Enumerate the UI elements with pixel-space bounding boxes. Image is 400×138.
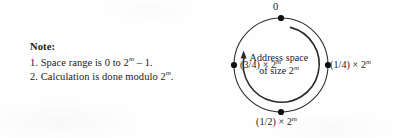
ring-label-quarter: (1/4) × 2m	[330, 58, 371, 70]
center-caption-line-2: of size 2m	[233, 64, 325, 78]
ring-label-half-prefix: (1/2) × 2	[256, 116, 292, 127]
address-space-ring-figure: 0 (1/4) × 2m (1/2) × 2m (3/4) × 2m Addre…	[196, 0, 400, 138]
note-item-1: 1. Space range is 0 to 2m – 1.	[30, 55, 215, 69]
note-item-1-suffix: – 1.	[134, 56, 153, 67]
ring-label-half-exponent: m	[292, 115, 297, 122]
node-dot-top	[278, 15, 284, 21]
ring-label-quarter-prefix: (1/4) × 2	[330, 59, 366, 70]
center-caption-line-2-prefix: of size 2	[259, 66, 294, 77]
note-heading: Note:	[30, 40, 215, 54]
center-caption-line-1: Address space	[233, 52, 325, 64]
note-block: Note: 1. Space range is 0 to 2m – 1. 2. …	[30, 40, 215, 83]
scanned-page: Note: 1. Space range is 0 to 2m – 1. 2. …	[0, 0, 400, 138]
ring-label-zero: 0	[273, 1, 278, 12]
ring-center-caption: Address space of size 2m	[233, 52, 325, 78]
note-item-2-prefix: 2. Calculation is done modulo 2	[30, 70, 166, 81]
ring-label-zero-text: 0	[273, 1, 278, 12]
note-item-2: 2. Calculation is done modulo 2m.	[30, 69, 215, 83]
ring-label-quarter-exponent: m	[366, 58, 371, 65]
note-item-1-prefix: 1. Space range is 0 to 2	[30, 56, 129, 67]
ring-label-half: (1/2) × 2m	[256, 115, 297, 127]
center-caption-line-2-exponent: m	[294, 64, 299, 71]
note-item-2-suffix: .	[171, 70, 174, 81]
